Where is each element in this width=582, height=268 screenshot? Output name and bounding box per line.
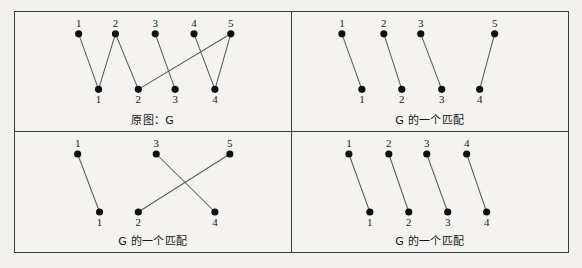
graph-node-bottom <box>135 208 142 215</box>
graph-node-top <box>463 150 470 157</box>
graph-node-label: 3 <box>424 137 430 149</box>
graph-node-label: 1 <box>76 17 81 29</box>
graph-node-bottom <box>438 86 445 93</box>
graph-node-bottom <box>476 86 483 93</box>
graph-node-top <box>385 150 392 157</box>
panel-caption-matching-2: G 的一个匹配 <box>15 232 291 248</box>
graph-node-label: 3 <box>153 17 159 29</box>
graph-node-top <box>380 30 387 37</box>
graph-node-bottom <box>405 208 412 215</box>
graph-node-label: 1 <box>339 17 344 29</box>
graph-node-label: 4 <box>212 216 218 228</box>
graph-node-bottom <box>172 86 179 93</box>
panel-matching-3: 12341234 G 的一个匹配 <box>292 132 569 252</box>
graph-edge <box>78 154 100 212</box>
graph-node-top <box>152 30 159 37</box>
graph-node-label: 1 <box>96 93 101 105</box>
graph-edge <box>383 34 401 90</box>
graph-node-top <box>345 150 352 157</box>
graph-node-label: 1 <box>75 137 80 149</box>
graph-node-label: 2 <box>386 137 391 149</box>
graph-node-label: 4 <box>476 93 482 105</box>
graph-node-label: 5 <box>227 137 233 149</box>
figure-frame: 123451234 原图：G 12351234 G 的一个匹配 135124 G… <box>14 11 569 253</box>
graph-node-label: 3 <box>153 137 159 149</box>
graph-node-label: 2 <box>399 93 404 105</box>
graph-node-label: 4 <box>463 137 469 149</box>
graph-node-label: 3 <box>444 216 450 228</box>
graph-edge <box>420 34 441 90</box>
graph-edge <box>388 154 408 212</box>
panel-original-graph: 123451234 原图：G <box>15 12 292 132</box>
graph-node-bottom <box>366 208 373 215</box>
graph-node-label: 1 <box>346 137 351 149</box>
graph-node-label: 5 <box>491 17 497 29</box>
graph-edge <box>194 34 215 90</box>
graph-node-top <box>74 150 81 157</box>
graph-edge <box>99 34 116 90</box>
graph-node-label: 1 <box>359 93 364 105</box>
panel-matching-2: 135124 G 的一个匹配 <box>15 132 292 252</box>
graph-node-bottom <box>95 86 102 93</box>
graph-node-bottom <box>135 86 142 93</box>
graph-edge <box>79 34 99 90</box>
graph-node-label: 2 <box>113 17 118 29</box>
graph-node-label: 4 <box>483 216 489 228</box>
graph-node-top <box>153 150 160 157</box>
graph-node-label: 3 <box>438 93 444 105</box>
graph-node-bottom <box>444 208 451 215</box>
graph-node-top <box>112 30 119 37</box>
panel-caption-matching-1: G 的一个匹配 <box>292 111 569 127</box>
panel-caption-matching-3: G 的一个匹配 <box>292 232 569 248</box>
graph-node-bottom <box>96 208 103 215</box>
graph-node-label: 3 <box>172 93 178 105</box>
graph-node-top <box>190 30 197 37</box>
panel-caption-original-graph: 原图：G <box>15 111 291 127</box>
graph-node-label: 1 <box>97 216 102 228</box>
graph-node-bottom <box>211 86 218 93</box>
graph-node-label: 2 <box>136 93 141 105</box>
graph-node-top <box>75 30 82 37</box>
graph-edge <box>341 34 361 90</box>
graph-edge <box>479 34 494 90</box>
graph-node-top <box>417 30 424 37</box>
graph-edge <box>155 34 175 90</box>
graph-node-label: 4 <box>212 93 218 105</box>
graph-node-label: 4 <box>191 17 197 29</box>
graph-edge <box>426 154 447 212</box>
graph-node-top <box>226 150 233 157</box>
graph-node-label: 2 <box>136 216 141 228</box>
graph-node-label: 3 <box>418 17 424 29</box>
graph-node-top <box>338 30 345 37</box>
graph-edge <box>138 154 230 212</box>
graph-edge <box>156 154 215 212</box>
graph-node-top <box>491 30 498 37</box>
graph-node-bottom <box>483 208 490 215</box>
graph-edge <box>348 154 369 212</box>
graph-edge <box>115 34 138 90</box>
graph-node-label: 1 <box>367 216 372 228</box>
panel-matching-1: 12351234 G 的一个匹配 <box>292 12 569 132</box>
graph-node-label: 2 <box>406 216 411 228</box>
graph-node-bottom <box>211 208 218 215</box>
graph-node-top <box>227 30 234 37</box>
graph-edge <box>466 154 486 212</box>
graph-node-label: 2 <box>381 17 386 29</box>
graph-node-label: 5 <box>228 17 234 29</box>
graph-node-bottom <box>398 86 405 93</box>
graph-node-top <box>423 150 430 157</box>
graph-node-bottom <box>358 86 365 93</box>
